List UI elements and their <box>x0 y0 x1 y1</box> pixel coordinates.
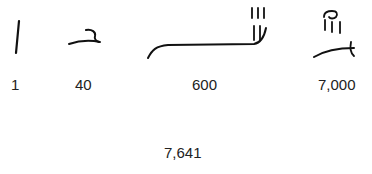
hieratic-six-hundred-glyph <box>144 6 270 62</box>
value-label-six-hundred: 600 <box>192 76 217 94</box>
value-label-one: 1 <box>11 76 19 94</box>
hieratic-seven-thousand-glyph <box>310 8 370 62</box>
value-label-seven-thousand: 7,000 <box>318 76 356 94</box>
total-value: 7,641 <box>164 144 202 162</box>
value-label-forty: 40 <box>75 76 92 94</box>
hieratic-forty-glyph <box>66 26 106 50</box>
hieratic-one-glyph <box>10 18 26 58</box>
